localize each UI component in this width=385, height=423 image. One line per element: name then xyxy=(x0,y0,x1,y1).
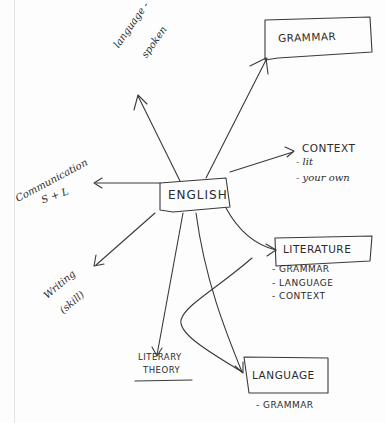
node-language-label: LANGUAGE xyxy=(252,369,315,381)
node-literature-item-2: - LANGUAGE xyxy=(272,279,333,288)
node-literature-item-3: - CONTEXT xyxy=(272,292,325,301)
node-grammar: GRAMMAR xyxy=(278,31,337,44)
node-context-item-2: - your own xyxy=(296,173,350,183)
node-language-item-1: - GRAMMAR xyxy=(256,401,314,410)
mind-map-connectors xyxy=(0,0,385,423)
node-context-label: CONTEXT xyxy=(302,142,355,154)
edge-literature-language-curve xyxy=(181,258,252,372)
node-literature: LITERATURE xyxy=(283,244,351,255)
node-language: LANGUAGE xyxy=(252,370,315,381)
edge-english-writing xyxy=(96,213,155,265)
mind-map-canvas: ENGLISH GRAMMAR language - spoken CONTEX… xyxy=(0,0,385,423)
edge-english-language-spoken xyxy=(138,96,180,181)
node-literary-theory-line2: THEORY xyxy=(143,365,180,375)
node-english: ENGLISH xyxy=(168,189,228,201)
edge-english-literature xyxy=(226,208,276,250)
edge-english-grammar xyxy=(206,58,267,178)
node-literary-theory-line1: LITERARY xyxy=(138,352,182,362)
literary-theory-underline xyxy=(135,380,192,381)
node-literature-label: LITERATURE xyxy=(283,243,351,255)
node-grammar-label: GRAMMAR xyxy=(278,30,337,44)
node-literary-theory: LITERARY xyxy=(138,353,182,362)
node-english-label: ENGLISH xyxy=(168,188,228,202)
edge-english-context xyxy=(230,152,293,172)
node-context-item-1: - lit xyxy=(296,157,313,167)
edge-english-language xyxy=(196,213,242,372)
node-literature-item-1: - GRAMMAR xyxy=(272,265,330,274)
node-literary-theory-2: THEORY xyxy=(143,366,180,375)
node-context: CONTEXT xyxy=(302,143,355,154)
edge-english-literary-theory xyxy=(157,213,183,355)
